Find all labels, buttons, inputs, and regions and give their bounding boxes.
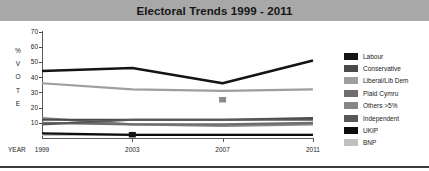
legend-label: Labour [363, 53, 383, 60]
chart-root: Electoral Trends 1999 - 2011 %VOTE YEAR … [0, 0, 429, 171]
series-line-labour [42, 60, 313, 83]
series-line-liberal-lib-dem [42, 83, 313, 91]
legend-item-liberal-lib-dem[interactable]: Liberal/Lib Dem [344, 75, 409, 87]
legend-label: Liberal/Lib Dem [363, 77, 409, 84]
legend-swatch-icon [344, 90, 358, 97]
legend-swatch-icon [344, 115, 358, 122]
legend-label: BNP [363, 139, 376, 146]
legend-item-conservative[interactable]: Conservative [344, 62, 409, 74]
legend-label: Others >5% [363, 102, 398, 109]
chart-legend: LabourConservativeLiberal/Lib DemPlaid C… [344, 50, 409, 149]
bottom-divider [0, 166, 429, 168]
legend-label: Plaid Cymru [363, 90, 398, 97]
legend-item-bnp[interactable]: BNP [344, 137, 409, 149]
legend-label: Conservative [363, 65, 401, 72]
legend-swatch-icon [344, 139, 358, 146]
legend-item-independent[interactable]: Independent [344, 112, 409, 124]
legend-label: UKIP [363, 127, 378, 134]
legend-swatch-icon [344, 65, 358, 72]
marker-2003 [129, 132, 136, 138]
legend-swatch-icon [344, 77, 358, 84]
legend-swatch-icon [344, 53, 358, 60]
legend-item-labour[interactable]: Labour [344, 50, 409, 62]
series-line-ukip [42, 133, 313, 135]
marker-2007 [219, 97, 226, 103]
legend-swatch-icon [344, 127, 358, 134]
legend-item-others-5[interactable]: Others >5% [344, 100, 409, 112]
legend-label: Independent [363, 115, 399, 122]
legend-swatch-icon [344, 102, 358, 109]
legend-item-plaid-cymru[interactable]: Plaid Cymru [344, 87, 409, 99]
legend-item-ukip[interactable]: UKIP [344, 124, 409, 136]
